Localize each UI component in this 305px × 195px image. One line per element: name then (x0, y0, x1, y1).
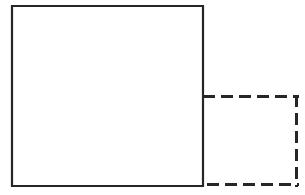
dashed-rectangle-group (203, 95, 299, 187)
solid-square-outline (12, 6, 203, 186)
geometric-figure-canvas (0, 0, 305, 195)
solid-square-group (12, 6, 203, 186)
figure-svg (0, 0, 305, 195)
